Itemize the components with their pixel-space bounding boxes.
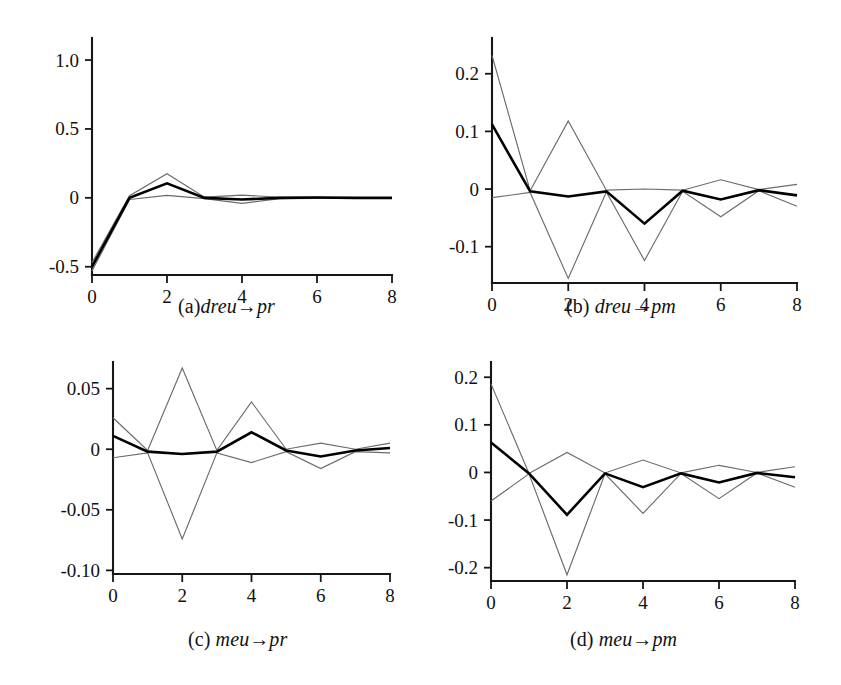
chart-panel-b: 0.20.10-0.102468 — [420, 18, 810, 268]
panel-d-caption-prefix: (d) — [570, 628, 594, 650]
series-line-upper-band — [492, 55, 797, 190]
x-tick-label: 4 — [247, 585, 257, 606]
chart-svg-b: 0.20.10-0.102468 — [420, 18, 810, 268]
x-tick-label: 8 — [385, 585, 395, 606]
x-tick-label: 0 — [487, 294, 497, 315]
panel-d-caption-target: pm — [652, 628, 677, 650]
arrow-icon: → — [632, 628, 652, 650]
x-tick-label: 8 — [790, 592, 800, 613]
y-tick-label: 0 — [469, 462, 479, 483]
panel-a-caption-target: pr — [257, 295, 275, 317]
x-tick-label: 2 — [162, 286, 172, 307]
y-tick-label: 0.5 — [55, 118, 79, 139]
x-tick-label: 4 — [638, 592, 648, 613]
series-line-point-estimate — [92, 183, 392, 266]
panel-c-caption-source: meu — [216, 628, 250, 650]
chart-panel-a: 1.00.50-0.502468 — [20, 18, 410, 268]
y-tick-label: 1.0 — [55, 50, 79, 71]
panel-d-caption: (d) meu→pm — [570, 628, 677, 651]
panel-c-caption: (c) meu→pr — [188, 628, 287, 651]
panel-c-caption-target: pr — [269, 628, 287, 650]
y-tick-label: -0.5 — [49, 256, 79, 277]
y-tick-label: -0.10 — [60, 560, 100, 581]
y-tick-label: -0.2 — [448, 557, 478, 578]
series-line-lower-band — [113, 452, 390, 539]
y-tick-label: 0.1 — [454, 414, 478, 435]
chart-panel-c: 0.050-0.05-0.1002468 — [20, 340, 410, 590]
panel-a-caption-prefix: (a) — [178, 295, 201, 317]
y-tick-label: -0.1 — [449, 236, 479, 257]
y-tick-label: 0.05 — [67, 378, 100, 399]
series-line-lower-band — [492, 191, 797, 279]
x-tick-label: 0 — [87, 286, 97, 307]
arrow-icon: → — [249, 628, 269, 650]
panel-b-caption-prefix: (b) — [566, 295, 590, 317]
panel-b-caption-source: dreu — [595, 295, 631, 317]
x-tick-label: 8 — [792, 294, 802, 315]
x-tick-label: 6 — [316, 585, 326, 606]
y-tick-label: 0 — [470, 179, 480, 200]
y-tick-label: 0.2 — [454, 367, 478, 388]
y-tick-label: 0.2 — [455, 63, 479, 84]
x-tick-label: 0 — [108, 585, 118, 606]
series-line-point-estimate — [113, 432, 390, 456]
panel-a-caption: (a)dreu→pr — [178, 295, 275, 318]
x-tick-label: 6 — [312, 286, 322, 307]
chart-svg-d: 0.20.10-0.1-0.202468 — [420, 340, 810, 590]
panel-d-caption-source: meu — [599, 628, 633, 650]
arrow-icon: → — [631, 295, 651, 317]
y-tick-label: 0 — [70, 187, 80, 208]
chart-svg-a: 1.00.50-0.502468 — [20, 18, 410, 268]
x-tick-label: 2 — [562, 592, 572, 613]
y-tick-label: -0.05 — [60, 499, 100, 520]
series-line-upper-band — [92, 174, 392, 263]
y-tick-label: -0.1 — [448, 510, 478, 531]
y-tick-label: 0 — [91, 439, 101, 460]
panel-b-caption: (b) dreu→pm — [566, 295, 676, 318]
y-tick-label: 0.1 — [455, 121, 479, 142]
chart-panel-d: 0.20.10-0.1-0.202468 — [420, 340, 810, 590]
x-tick-label: 6 — [714, 592, 724, 613]
series-line-lower-band — [92, 195, 392, 271]
x-tick-label: 0 — [486, 592, 496, 613]
series-line-upper-band — [113, 368, 390, 450]
panel-a-caption-source: dreu — [201, 295, 237, 317]
panel-b-caption-target: pm — [651, 295, 676, 317]
x-tick-label: 2 — [178, 585, 188, 606]
series-line-upper-band — [491, 384, 795, 474]
x-tick-label: 8 — [387, 286, 397, 307]
x-tick-label: 6 — [716, 294, 726, 315]
panel-c-caption-prefix: (c) — [188, 628, 211, 650]
arrow-icon: → — [237, 295, 257, 317]
figure-impulse-response-grid: 1.00.50-0.502468 (a)dreu→pr 0.20.10-0.10… — [0, 0, 841, 685]
chart-svg-c: 0.050-0.05-0.1002468 — [20, 340, 410, 590]
